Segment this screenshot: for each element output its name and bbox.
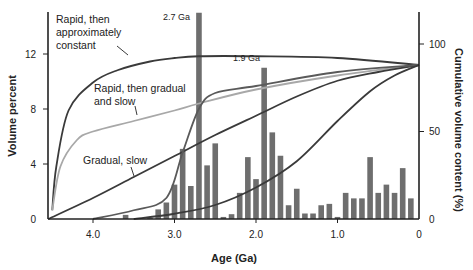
bar	[188, 186, 194, 219]
bar	[384, 185, 390, 219]
bar	[327, 204, 333, 219]
bar	[278, 156, 284, 219]
bar	[196, 13, 202, 219]
leader-rapid-constant	[117, 46, 128, 55]
bar	[367, 157, 373, 219]
y2-tick-label: 0	[429, 214, 435, 225]
bar	[155, 209, 161, 219]
label-rapid-constant-line1: Rapid, then	[56, 13, 110, 25]
bar	[408, 198, 414, 219]
cumulative-curves	[48, 56, 419, 219]
bar	[212, 143, 218, 219]
y-tick-label: 12	[25, 49, 37, 60]
volume-bars	[123, 13, 414, 219]
x-tick-label: 2.0	[249, 229, 263, 240]
bar	[294, 189, 300, 219]
bar	[204, 165, 210, 219]
y-axis-title: Volume percent	[6, 75, 18, 157]
bar	[375, 193, 381, 219]
label-rapid-gradual-line1: Rapid, then gradual	[94, 82, 186, 94]
bar	[164, 203, 170, 220]
bar	[318, 205, 324, 219]
x-axis-ticks: 4.03.02.01.00	[86, 219, 422, 240]
y-tick-label: 0	[30, 214, 36, 225]
crustal-growth-chart: 4.03.02.01.00 04812 050100 Age (Ga) Volu…	[0, 0, 473, 270]
bar	[270, 132, 276, 219]
y2-tick-label: 100	[429, 39, 446, 50]
leader-gradual-slow	[131, 167, 134, 176]
bar	[359, 198, 365, 219]
bar	[351, 198, 357, 219]
bar	[261, 68, 267, 219]
cumulative-curve	[52, 56, 419, 210]
bar	[245, 157, 251, 219]
bar	[302, 214, 308, 220]
y-tick-label: 8	[30, 104, 36, 115]
bar	[310, 214, 316, 220]
y-tick-label: 4	[30, 159, 36, 170]
bar	[392, 193, 398, 219]
bar	[343, 193, 349, 219]
annotation-1-9-ga: 1.9 Ga	[233, 53, 260, 63]
x-tick-label: 3.0	[168, 229, 182, 240]
label-rapid-constant-line2: approximately	[56, 26, 122, 38]
left-y-axis-ticks: 04812	[25, 49, 48, 225]
bar	[286, 205, 292, 219]
annotation-2-7-ga: 2.7 Ga	[163, 12, 190, 22]
bar	[400, 168, 406, 219]
x-tick-label: 4.0	[86, 229, 100, 240]
y2-axis-title: Cumulative volume content (%)	[453, 48, 465, 212]
label-rapid-constant-line3: constant	[56, 39, 96, 51]
y2-tick-label: 50	[429, 126, 441, 137]
leader-rapid-gradual	[135, 106, 137, 115]
x-tick-label: 1.0	[331, 229, 345, 240]
x-axis-title: Age (Ga)	[211, 252, 257, 264]
label-rapid-gradual-line2: and slow	[94, 95, 136, 107]
label-gradual-slow: Gradual, slow	[83, 154, 148, 166]
x-tick-label: 0	[416, 229, 422, 240]
right-y-axis-ticks: 050100	[419, 39, 446, 225]
bar	[253, 179, 259, 219]
